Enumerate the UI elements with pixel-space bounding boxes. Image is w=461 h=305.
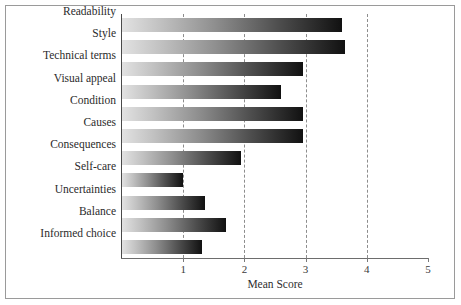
bar — [122, 151, 241, 165]
x-tick-mark-4 — [367, 258, 368, 262]
category-label: Visual appeal — [3, 72, 121, 84]
bar — [122, 129, 303, 143]
bar-row — [122, 62, 428, 76]
bar — [122, 107, 303, 121]
bar-row — [122, 151, 428, 165]
y-axis-line — [121, 14, 122, 259]
category-label: Balance — [3, 205, 121, 217]
category-label: Uncertainties — [3, 183, 121, 195]
category-axis-labels: ReadabilityStyleTechnical termsVisual ap… — [0, 0, 121, 244]
category-label: Style — [3, 27, 121, 39]
bar — [122, 173, 183, 187]
bar-row — [122, 85, 428, 99]
x-tick-label-4: 4 — [364, 263, 370, 275]
category-label: Condition — [3, 94, 121, 106]
bar-row — [122, 240, 428, 254]
x-tick-mark-2 — [244, 258, 245, 262]
x-tick-mark-3 — [306, 258, 307, 262]
bar — [122, 18, 342, 32]
category-label: Informed choice — [3, 227, 121, 239]
plot-area — [122, 14, 428, 258]
x-tick-label-1: 1 — [180, 263, 186, 275]
category-label: Consequences — [3, 138, 121, 150]
bar — [122, 85, 281, 99]
bar — [122, 218, 226, 232]
bar — [122, 62, 303, 76]
bar-row — [122, 40, 428, 54]
category-label: Causes — [3, 116, 121, 128]
bar — [122, 240, 202, 254]
bar — [122, 196, 205, 210]
bar-row — [122, 218, 428, 232]
bar — [122, 40, 345, 54]
x-axis-line — [121, 258, 429, 259]
x-tick-label-5: 5 — [425, 263, 431, 275]
bar-row — [122, 173, 428, 187]
category-label: Self-care — [3, 160, 121, 172]
x-tick-mark-1 — [183, 258, 184, 262]
x-axis-title: Mean Score — [122, 278, 428, 290]
bar-row — [122, 196, 428, 210]
x-tick-label-3: 3 — [303, 263, 309, 275]
category-label: Readability — [3, 5, 121, 17]
category-label: Technical terms — [3, 49, 121, 61]
bar-row — [122, 107, 428, 121]
bar-row — [122, 18, 428, 32]
chart-figure: ReadabilityStyleTechnical termsVisual ap… — [0, 0, 461, 305]
x-tick-mark-5 — [428, 258, 429, 262]
x-tick-label-2: 2 — [242, 263, 248, 275]
bar-row — [122, 129, 428, 143]
